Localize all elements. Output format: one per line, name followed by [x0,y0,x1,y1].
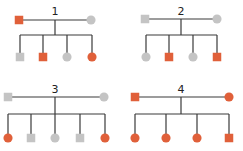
child-2-square-affected [39,53,48,62]
parent-father-square-unaffected [141,15,150,24]
child-4-square-affected [213,53,222,62]
pedigree-label: 4 [178,83,185,96]
child-5-circle-affected [100,133,109,142]
child-2-square-unaffected [27,134,36,143]
child-3-circle-unaffected [62,52,71,61]
pedigree-label: 1 [52,5,59,18]
parent-father-square-affected [15,16,24,25]
parent-father-square-unaffected [4,93,13,102]
parent-mother-circle-unaffected [212,14,221,23]
child-1-circle-unaffected [141,52,150,61]
parent-father-square-affected [131,93,140,102]
pedigree-2: 2 [141,5,222,62]
child-2-square-affected [165,53,174,62]
parent-mother-circle-affected [224,92,233,101]
child-3-circle-unaffected [50,133,59,142]
child-1-circle-affected [3,133,12,142]
pedigree-1: 1 [15,5,97,62]
parent-mother-circle-unaffected [86,15,95,24]
child-1-circle-affected [130,133,139,142]
child-1-square-unaffected [16,53,25,62]
pedigree-diagram: 1 2 3 4 [0,0,243,151]
child-2-circle-affected [161,133,170,142]
parent-mother-circle-unaffected [99,92,108,101]
pedigree-label: 2 [178,5,185,18]
pedigree-4: 4 [130,83,233,143]
child-3-circle-unaffected [188,52,197,61]
child-3-circle-affected [192,133,201,142]
pedigree-3: 3 [3,83,109,143]
child-4-square-affected [225,134,234,143]
pedigree-label: 3 [52,83,59,96]
child-4-circle-affected [87,52,96,61]
child-4-square-unaffected [76,134,85,143]
